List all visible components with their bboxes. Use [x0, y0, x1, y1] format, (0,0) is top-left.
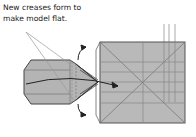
square-base — [96, 42, 185, 123]
origami-diagram — [0, 0, 196, 137]
